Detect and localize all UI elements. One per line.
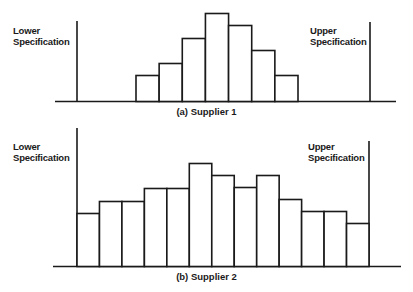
histogram-bar [229, 26, 252, 102]
upper-spec-label: Upper Specification [310, 25, 367, 47]
histogram-bar [159, 64, 182, 102]
lower-spec-label: Lower Specification [13, 141, 70, 163]
histogram-bar [99, 202, 121, 267]
label-line: Specification [308, 152, 365, 163]
label-line: Lower [13, 25, 70, 36]
histogram-bar [205, 14, 228, 102]
label-line: Specification [13, 152, 70, 163]
caption-supplier-2: (b) Supplier 2 [0, 271, 413, 282]
label-line: Lower [13, 141, 70, 152]
upper-spec-label: Upper Specification [308, 141, 365, 163]
histogram-bar [234, 188, 256, 267]
histogram-bar [212, 176, 234, 267]
histogram-bar [144, 189, 166, 267]
histogram-bar [347, 224, 369, 267]
histogram-bar [324, 212, 346, 267]
histogram-bar [122, 202, 144, 267]
label-line: Upper [308, 141, 365, 152]
label-line: Specification [310, 36, 367, 47]
histogram-bar [279, 200, 301, 267]
histogram-bar [77, 214, 99, 267]
histogram-bar [182, 39, 205, 102]
caption-supplier-1: (a) Supplier 1 [0, 106, 413, 117]
label-line: Upper [310, 25, 367, 36]
histogram-bar [136, 76, 159, 102]
histogram-bar [189, 164, 211, 267]
label-line: Specification [13, 36, 70, 47]
histogram-bar [252, 51, 275, 102]
histogram-bar [167, 189, 189, 267]
lower-spec-label: Lower Specification [13, 25, 70, 47]
histogram-bar [275, 76, 298, 102]
histogram-bar [257, 176, 279, 267]
histogram-bar [302, 212, 324, 267]
